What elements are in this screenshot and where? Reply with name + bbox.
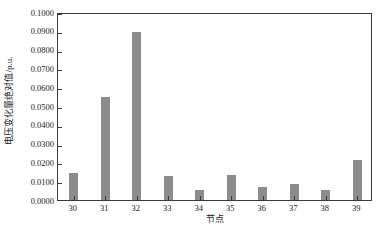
x-tick-label: 31 <box>89 203 121 213</box>
x-tick-label: 36 <box>246 203 278 213</box>
x-tick-label: 30 <box>57 203 89 213</box>
x-tick-mark <box>294 196 295 200</box>
y-axis-title-text: 电压变化量绝对值/p.u. <box>5 56 14 144</box>
bars-layer <box>58 14 371 200</box>
x-tick-mark <box>326 196 327 200</box>
y-tick-mark <box>58 127 62 128</box>
y-axis-tick-labels: 0.00000.01000.02000.03000.04000.05000.06… <box>16 8 54 200</box>
x-tick-label: 35 <box>215 203 247 213</box>
y-tick-label: 0.0300 <box>16 140 54 149</box>
bar <box>132 32 141 200</box>
y-tick-label: 0.0200 <box>16 159 54 168</box>
x-tick-mark <box>263 196 264 200</box>
y-tick-mark <box>58 164 62 165</box>
y-tick-mark <box>58 14 62 15</box>
x-tick-label: 33 <box>152 203 184 213</box>
y-tick-mark <box>58 183 62 184</box>
x-tick-label: 32 <box>120 203 152 213</box>
y-tick-mark <box>58 89 62 90</box>
y-tick-label: 0.0100 <box>16 178 54 187</box>
x-tick-mark <box>137 196 138 200</box>
y-tick-label: 0.0500 <box>16 103 54 112</box>
y-tick-label: 0.0000 <box>16 197 54 206</box>
x-tick-label: 39 <box>341 203 373 213</box>
bar-chart: 电压变化量绝对值/p.u. 0.00000.01000.02000.03000.… <box>0 0 385 228</box>
y-tick-mark <box>58 52 62 53</box>
x-axis-title: 节点 <box>57 214 372 225</box>
x-tick-mark <box>168 196 169 200</box>
x-axis-title-text: 节点 <box>206 214 224 224</box>
x-tick-mark <box>231 196 232 200</box>
x-tick-mark <box>357 196 358 200</box>
plot-area <box>57 13 372 201</box>
x-tick-label: 38 <box>309 203 341 213</box>
x-tick-mark <box>200 196 201 200</box>
y-tick-mark <box>58 108 62 109</box>
y-tick-mark <box>58 33 62 34</box>
y-tick-mark <box>58 70 62 71</box>
y-tick-label: 0.0900 <box>16 27 54 36</box>
y-tick-label: 0.0600 <box>16 84 54 93</box>
y-tick-label: 0.0700 <box>16 65 54 74</box>
y-tick-label: 0.1000 <box>16 9 54 18</box>
bar <box>353 160 362 200</box>
x-tick-mark <box>105 196 106 200</box>
bar <box>101 97 110 200</box>
y-tick-label: 0.0400 <box>16 121 54 130</box>
x-tick-label: 37 <box>278 203 310 213</box>
x-tick-label: 34 <box>183 203 215 213</box>
y-tick-mark <box>58 146 62 147</box>
x-tick-mark <box>74 196 75 200</box>
y-tick-label: 0.0800 <box>16 46 54 55</box>
